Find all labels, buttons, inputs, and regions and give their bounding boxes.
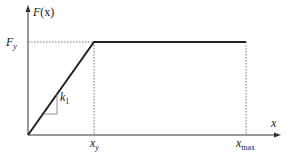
y-axis-arrow-icon	[26, 5, 31, 12]
k1-label: k1	[60, 90, 69, 106]
xy-label: xy	[89, 136, 99, 152]
x-axis-arrow-icon	[274, 133, 281, 138]
force-displacement-diagram: F(x) Fy k1 xy xmax x	[0, 0, 291, 156]
x-axis-label: x	[270, 116, 277, 130]
fy-label: Fy	[5, 35, 17, 51]
force-curve	[28, 42, 246, 135]
y-axis-label: F(x)	[32, 5, 54, 19]
xmax-label: xmax	[235, 136, 255, 152]
